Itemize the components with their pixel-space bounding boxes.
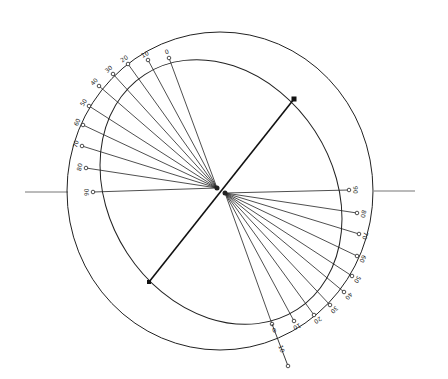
- lower-fan-ray-marker: [342, 290, 346, 294]
- lower-fan-ray-marker: [355, 254, 359, 258]
- lower-fan-ray: [225, 193, 314, 315]
- lower-fan-ray-marker: [292, 319, 296, 323]
- upper-fan-ray-marker: [87, 104, 91, 108]
- lower-fan-ray: [225, 190, 349, 193]
- upper-fan-ray-marker: [84, 166, 88, 170]
- upper-fan-ray: [93, 188, 217, 192]
- lower-fan-ray-marker: [357, 232, 361, 236]
- upper-fan-ray: [82, 146, 217, 188]
- upper-fan-origin: [215, 186, 220, 191]
- lower-fan-ray-label: 80: [360, 210, 368, 219]
- upper-fan-ray: [128, 64, 217, 188]
- lower-fan-ray: [225, 193, 330, 305]
- lower-fan-ray-marker: [350, 274, 354, 278]
- upper-fan-ray-label: 80: [75, 162, 83, 171]
- upper-fan-ray-marker: [111, 72, 115, 76]
- axis-end-marker-upper: [292, 97, 297, 102]
- lower-fan-ray: [225, 193, 294, 321]
- upper-fan-ray-marker: [80, 144, 84, 148]
- lower-fan-ray-label: 70: [361, 231, 370, 241]
- lower-fan-ray-label: 90: [352, 186, 359, 194]
- upper-fan-ray-marker: [91, 190, 95, 194]
- main-axis: [149, 99, 294, 282]
- extension-label: 10: [277, 344, 286, 354]
- lower-fan-ray: [225, 193, 359, 234]
- axis-end-marker-lower: [147, 280, 151, 284]
- extension-end-marker: [286, 364, 290, 368]
- upper-fan-ray-label: 90: [83, 188, 90, 196]
- upper-fan-ray-marker: [126, 62, 130, 66]
- lower-fan-ray-marker: [328, 303, 332, 307]
- lower-fan-ray: [225, 193, 357, 213]
- upper-fan-ray-marker: [167, 56, 171, 60]
- diagram-layer: 0102030405060708090908070605040302010010: [25, 14, 415, 371]
- lower-fan-ray-marker: [355, 211, 359, 215]
- lower-fan-origin: [223, 191, 228, 196]
- upper-fan-ray-marker: [146, 58, 150, 62]
- lower-fan-ray-marker: [312, 313, 316, 317]
- lower-fan-ray: [225, 193, 352, 276]
- upper-fan-ray-marker: [97, 84, 101, 88]
- stereographic-diagram: 0102030405060708090908070605040302010010: [0, 0, 448, 379]
- lower-fan-ray: [225, 193, 357, 256]
- upper-fan-ray-marker: [81, 123, 85, 127]
- lower-fan-ray-marker: [347, 188, 351, 192]
- upper-fan-ray-label: 70: [71, 139, 80, 149]
- upper-fan-ray-label: 0: [164, 48, 170, 56]
